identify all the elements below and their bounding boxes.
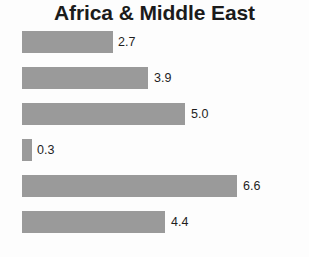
bar-value-label: 3.9 [154, 69, 171, 87]
bar-chart: Africa & Middle East 2.7 3.9 5.0 0.3 6.6… [0, 0, 309, 257]
bar-row: 0.3 [0, 139, 309, 161]
bar-segment [22, 175, 237, 197]
bar-row: 3.9 [0, 67, 309, 89]
bar-segment [22, 211, 165, 233]
bar-value-label: 6.6 [243, 177, 260, 195]
bar-segment [22, 67, 148, 89]
chart-title: Africa & Middle East [0, 1, 309, 25]
bar-value-label: 4.4 [171, 213, 188, 231]
bar-value-label: 0.3 [37, 141, 54, 159]
bar-value-label: 5.0 [191, 105, 208, 123]
bar-value-label: 2.7 [118, 33, 135, 51]
bar-segment [22, 31, 113, 53]
bar-row: 5.0 [0, 103, 309, 125]
bar-row: 2.7 [0, 31, 309, 53]
bar-row: 4.4 [0, 211, 309, 233]
bar-row: 6.6 [0, 175, 309, 197]
chart-plot-area: 2.7 3.9 5.0 0.3 6.6 4.4 [0, 28, 309, 257]
bar-segment [22, 139, 32, 161]
bar-segment [22, 103, 185, 125]
